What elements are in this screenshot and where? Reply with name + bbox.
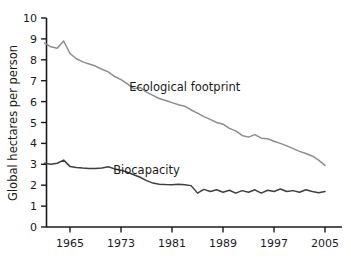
x-tick-label: 2005 bbox=[311, 237, 339, 250]
y-axis-title: Global hectares per person bbox=[6, 45, 20, 201]
x-tick-label: 1981 bbox=[158, 237, 186, 250]
axis-ticks bbox=[41, 18, 325, 233]
y-tick-labels: 012345678910 bbox=[23, 12, 37, 234]
y-tick-label: 0 bbox=[30, 221, 37, 234]
series-label-ecological-footprint: Ecological footprint bbox=[129, 80, 241, 94]
series-label-biocapacity: Biocapacity bbox=[113, 163, 180, 177]
y-tick-label: 9 bbox=[30, 33, 37, 46]
y-axis-title-group: Global hectares per person bbox=[6, 45, 20, 201]
chart-figure: Global hectares per person 012345678910 … bbox=[0, 0, 351, 260]
y-tick-label: 4 bbox=[30, 137, 37, 150]
y-tick-label: 8 bbox=[30, 54, 37, 67]
x-tick-label: 1973 bbox=[107, 237, 135, 250]
y-tick-label: 3 bbox=[30, 158, 37, 171]
line-chart-svg: Global hectares per person 012345678910 … bbox=[0, 0, 351, 260]
y-tick-label: 5 bbox=[30, 117, 37, 130]
axis-lines bbox=[47, 18, 343, 228]
series-line-ecological-footprint bbox=[45, 41, 326, 165]
y-tick-label: 7 bbox=[30, 75, 37, 88]
x-tick-labels: 196519731981198919972005 bbox=[56, 237, 339, 250]
y-tick-label: 10 bbox=[23, 12, 37, 25]
x-tick-label: 1989 bbox=[209, 237, 237, 250]
x-tick-label: 1965 bbox=[56, 237, 84, 250]
y-tick-label: 1 bbox=[30, 200, 37, 213]
series-annotations: Ecological footprintBiocapacity bbox=[113, 80, 241, 177]
x-tick-label: 1997 bbox=[260, 237, 288, 250]
series-line-biocapacity bbox=[45, 160, 326, 193]
data-series-group bbox=[45, 41, 326, 193]
y-tick-label: 2 bbox=[30, 179, 37, 192]
y-tick-label: 6 bbox=[30, 96, 37, 109]
